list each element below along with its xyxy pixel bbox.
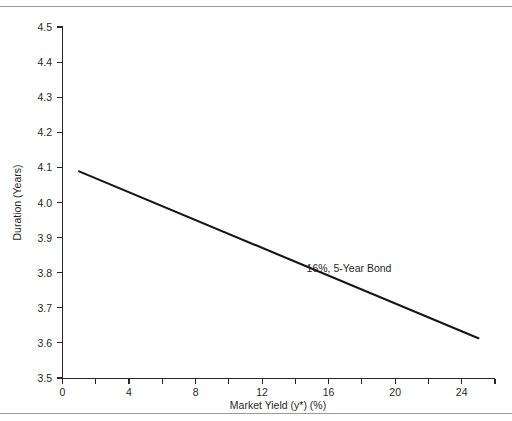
x-tick-label: 8 [193,386,199,398]
y-tick-label: 4.2 [37,126,52,138]
x-axis-title: Market Yield (y*) (%) [230,399,326,411]
x-tick-label: 24 [456,386,468,398]
duration-vs-yield-line-chart: 4.5 4.4 4.3 4.2 4.1 4.0 3.9 3.8 3.7 3.6 … [0,0,512,421]
x-axis-tick-labels: 0 4 8 12 16 20 24 [60,386,468,398]
y-tick-label: 4.5 [37,21,52,33]
duration-series-line [79,171,478,338]
y-tick-label: 4.0 [37,197,52,209]
figure-container: 4.5 4.4 4.3 4.2 4.1 4.0 3.9 3.8 3.7 3.6 … [0,0,512,421]
x-tick-label: 0 [60,386,66,398]
x-axis-ticks [63,379,496,385]
x-tick-label: 4 [126,386,132,398]
series-annotation-label: 16%, 5-Year Bond [307,262,392,274]
x-tick-label: 12 [256,386,268,398]
y-tick-label: 4.3 [37,91,52,103]
y-tick-label: 3.7 [37,302,52,314]
x-tick-label: 20 [389,386,401,398]
y-axis-title: Duration (Years) [11,164,23,240]
y-tick-label: 3.6 [37,337,52,349]
x-tick-label: 16 [323,386,335,398]
y-axis-tick-labels: 4.5 4.4 4.3 4.2 4.1 4.0 3.9 3.8 3.7 3.6 … [37,21,52,384]
y-axis-ticks [57,27,63,378]
y-tick-label: 3.9 [37,232,52,244]
y-tick-label: 4.1 [37,161,52,173]
y-tick-label: 3.5 [37,372,52,384]
y-tick-label: 3.8 [37,267,52,279]
y-tick-label: 4.4 [37,56,52,68]
